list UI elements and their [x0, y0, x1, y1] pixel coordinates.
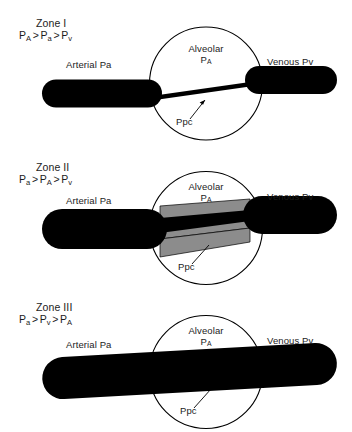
alveolar-label-3-line2: P	[200, 336, 206, 347]
alveolar-label-1: Alveolar PA	[175, 44, 237, 65]
eq3-term2-base: P	[40, 313, 47, 325]
arterial-label-3: Arterial Pa	[66, 340, 111, 351]
alveolar-label-2: Alveolar PA	[175, 182, 237, 203]
alveolar-label-1-line1: Alveolar	[188, 43, 223, 54]
eq3-op1: >	[30, 313, 39, 325]
zone-title-3: Zone III	[36, 302, 72, 314]
ppc-label-2: Ppc	[178, 262, 195, 273]
eq2-op2: >	[52, 173, 61, 185]
eq2-op1: >	[30, 173, 39, 185]
eq2-term2-base: P	[40, 173, 47, 185]
alveolar-label-3-line1: Alveolar	[188, 325, 223, 336]
alveolar-label-2-line2: P	[200, 192, 206, 203]
venous-vessel-zone-1	[245, 66, 337, 94]
eq3-term2-sub: v	[47, 318, 51, 327]
alveolar-label-3-line2-sub: A	[207, 340, 212, 347]
eq1-op2: >	[52, 29, 61, 41]
ppc-label-3: Ppc	[180, 406, 197, 417]
eq2-term1-sub: a	[26, 178, 30, 187]
eq1-term2-base: P	[40, 29, 47, 41]
eq1-term1-sub: A	[26, 34, 31, 43]
zone-equation-3: Pa>Pv>PA	[19, 314, 72, 326]
eq3-term3-base: P	[60, 313, 67, 325]
eq3-term3-sub: A	[67, 318, 72, 327]
eq1-term2-sub: a	[48, 34, 52, 43]
venous-label-3: Venous Pv	[267, 336, 313, 347]
arterial-vessel-zone-1	[42, 80, 162, 108]
alveolar-label-1-line2: P	[200, 54, 206, 65]
arterial-label-2: Arterial Pa	[66, 196, 111, 207]
zone-equation-2: Pa>PA>Pv	[19, 174, 72, 186]
eq2-term2-sub: A	[47, 178, 52, 187]
alveolar-label-2-line2-sub: A	[207, 196, 212, 203]
eq1-term3-sub: v	[68, 34, 72, 43]
eq3-op2: >	[51, 313, 60, 325]
alveolar-label-1-line2-sub: A	[207, 58, 212, 65]
zone-title-1: Zone I	[36, 18, 66, 30]
venous-label-2: Venous Pv	[267, 192, 313, 203]
ppc-label-1: Ppc	[176, 117, 193, 128]
alveolar-label-2-line1: Alveolar	[188, 181, 223, 192]
arterial-label-1: Arterial Pa	[66, 60, 111, 71]
venous-label-1: Venous Pv	[267, 57, 313, 68]
eq3-term1-sub: a	[26, 318, 30, 327]
zone-title-2: Zone II	[36, 162, 69, 174]
arterial-vessel-zone-2	[42, 209, 167, 249]
alveolar-label-3: Alveolar PA	[175, 326, 237, 347]
zone-equation-1: PA>Pa>Pv	[19, 30, 72, 42]
zones-of-the-lung-figure: Zone I PA>Pa>Pv Arterial Pa Venous Pv Al…	[0, 0, 352, 432]
eq2-term3-sub: v	[68, 178, 72, 187]
